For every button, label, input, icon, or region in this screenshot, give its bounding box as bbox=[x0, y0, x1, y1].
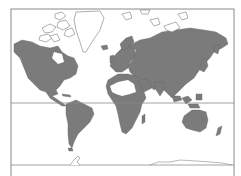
world-map-svg bbox=[0, 0, 241, 176]
madagascar bbox=[142, 114, 145, 124]
tierra-del-fuego bbox=[68, 148, 73, 151]
russian-arctic-islands bbox=[122, 10, 188, 32]
south-america bbox=[66, 100, 94, 148]
british-isles bbox=[110, 55, 114, 63]
antarctica-coastline bbox=[150, 160, 232, 165]
iceland bbox=[101, 45, 108, 50]
indonesia bbox=[172, 94, 202, 108]
caribbean bbox=[62, 94, 71, 97]
new-zealand bbox=[216, 126, 222, 136]
north-america bbox=[14, 40, 78, 96]
kamchatka bbox=[214, 44, 220, 54]
australia bbox=[182, 110, 208, 132]
greenland bbox=[74, 11, 104, 52]
antarctic-peninsula bbox=[70, 156, 80, 165]
world-map bbox=[0, 0, 241, 176]
arctic-islands bbox=[39, 12, 75, 42]
